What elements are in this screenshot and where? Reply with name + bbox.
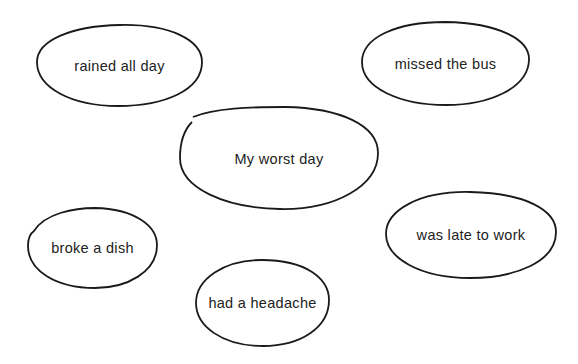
bubble-rained-all-day: rained all day	[37, 25, 202, 106]
center-bubble: My worst day	[180, 107, 378, 210]
bubble-had-a-headache: had a headache	[196, 260, 329, 346]
bubble-label: missed the bus	[395, 56, 497, 72]
bubble-label: was late to work	[417, 227, 526, 243]
bubble-was-late-to-work: was late to work	[386, 192, 556, 278]
bubble-missed-the-bus: missed the bus	[362, 22, 529, 105]
bubble-label: rained all day	[74, 58, 164, 74]
bubble-label: had a headache	[208, 295, 316, 311]
bubble-broke-a-dish: broke a dish	[28, 208, 157, 288]
center-label: My worst day	[234, 151, 323, 167]
bubble-label: broke a dish	[51, 240, 134, 256]
